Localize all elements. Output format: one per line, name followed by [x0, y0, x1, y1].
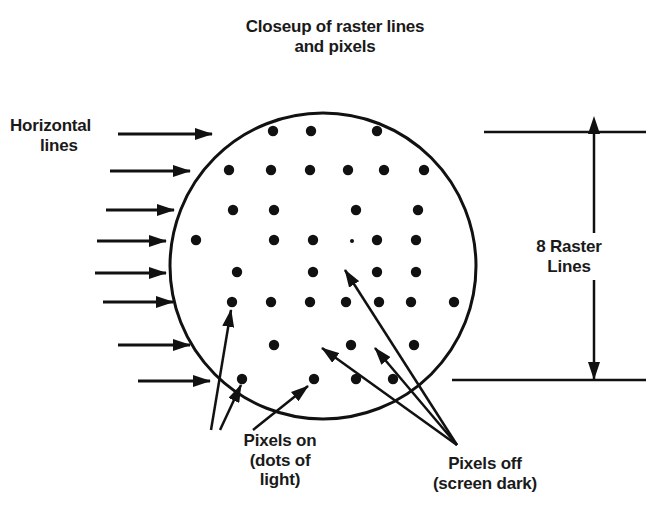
pixel-on-dot: [305, 297, 315, 307]
pixel-on-dot: [374, 297, 384, 307]
pixels-off-label: Pixels off (screen dark): [415, 454, 555, 493]
raster-count-line-1: 8 Raster: [524, 237, 614, 257]
diagram-title: Closeup of raster lines and pixels: [190, 17, 480, 56]
pixel-on-dot: [228, 205, 238, 215]
pixels-off-arrow: [375, 348, 457, 445]
pixel-on-dot: [343, 165, 353, 175]
raster-lines-count-label: 8 Raster Lines: [524, 233, 614, 280]
pixel-on-dot: [266, 165, 276, 175]
pixel-on-dot: [341, 297, 351, 307]
pixel-on-dot: [372, 267, 382, 277]
pixel-on-dot: [372, 235, 382, 245]
pixels-on-pointers: [211, 310, 308, 430]
pixel-on-dot: [406, 297, 416, 307]
pixel-on-dot: [306, 126, 316, 136]
title-line-1: Closeup of raster lines: [190, 17, 480, 37]
title-line-2: and pixels: [190, 37, 480, 57]
pixel-on-dot: [419, 165, 429, 175]
pixel-on-dot: [411, 267, 421, 277]
horizontal-lines-label: Horizontal lines: [10, 116, 110, 155]
horizontal-line-arrows: [95, 134, 212, 381]
pixel-on-dot: [232, 267, 242, 277]
pixels-on-label: Pixels on (dots of light): [230, 431, 330, 490]
pixel-on-dot: [351, 205, 361, 215]
raster-diagram: Closeup of raster lines and pixels Horiz…: [0, 0, 664, 521]
screen-closeup-circle: [170, 113, 476, 419]
raster-count-line-2: Lines: [524, 257, 614, 277]
pixel-dots: [191, 126, 459, 384]
pixels-on-line-2: (dots of: [230, 451, 330, 471]
pixels-on-arrow: [253, 386, 308, 430]
pixels-on-arrow: [220, 385, 241, 430]
pixel-on-dot: [308, 235, 318, 245]
pixel-on-dot: [269, 340, 279, 350]
pixels-off-line-2: (screen dark): [415, 474, 555, 494]
pixels-on-line-1: Pixels on: [230, 431, 330, 451]
horizontal-lines-label-line-1: Horizontal: [10, 116, 110, 136]
pixel-on-dot: [379, 165, 389, 175]
pixel-on-dot: [305, 165, 315, 175]
pixel-on-dot: [308, 267, 318, 277]
pixel-dim-dot: [350, 239, 354, 243]
pixel-on-dot: [191, 235, 201, 245]
pixel-on-dot: [411, 235, 421, 245]
pixel-on-dot: [409, 340, 419, 350]
pixels-off-arrow: [322, 348, 457, 445]
pixel-on-dot: [309, 374, 319, 384]
pixel-on-dot: [237, 374, 247, 384]
pixels-off-arrow: [345, 270, 457, 445]
pixel-on-dot: [372, 126, 382, 136]
pixel-on-dot: [346, 340, 356, 350]
pixels-on-line-3: light): [230, 470, 330, 490]
horizontal-lines-label-line-2: lines: [10, 136, 110, 156]
pixels-off-line-1: Pixels off: [415, 454, 555, 474]
pixel-on-dot: [268, 126, 278, 136]
pixel-on-dot: [227, 297, 237, 307]
pixel-on-dot: [269, 205, 279, 215]
pixel-on-dot: [449, 297, 459, 307]
pixel-on-dot: [224, 165, 234, 175]
pixel-on-dot: [266, 297, 276, 307]
pixel-on-dot: [269, 235, 279, 245]
pixel-on-dot: [413, 205, 423, 215]
